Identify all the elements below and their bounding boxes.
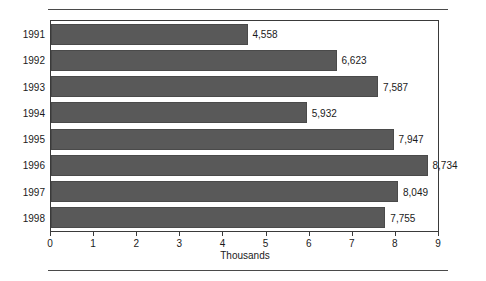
category-label-1997: 1997 bbox=[23, 186, 45, 197]
bar-value-label-1997: 8,049 bbox=[398, 186, 428, 197]
x-tick-0 bbox=[50, 232, 51, 236]
bar-1992[interactable] bbox=[51, 50, 337, 71]
x-tick-label-4: 4 bbox=[220, 238, 226, 249]
x-tick-5 bbox=[266, 232, 267, 236]
category-label-1998: 1998 bbox=[23, 212, 45, 223]
x-tick-label-7: 7 bbox=[349, 238, 355, 249]
x-tick-label-1: 1 bbox=[90, 238, 96, 249]
x-tick-6 bbox=[309, 232, 310, 236]
x-tick-label-6: 6 bbox=[306, 238, 312, 249]
x-tick-2 bbox=[136, 232, 137, 236]
x-tick-7 bbox=[352, 232, 353, 236]
bar-1997[interactable] bbox=[51, 181, 398, 202]
bar-value-label-1996: 8,734 bbox=[428, 160, 458, 171]
bar-value-label-1994: 5,932 bbox=[307, 107, 337, 118]
category-label-1994: 1994 bbox=[23, 107, 45, 118]
x-tick-9 bbox=[438, 232, 439, 236]
bar-row: 4,558 bbox=[51, 24, 439, 45]
bar-row: 8,734 bbox=[51, 155, 439, 176]
bar-1994[interactable] bbox=[51, 102, 307, 123]
bar-row: 7,755 bbox=[51, 207, 439, 228]
x-tick-label-0: 0 bbox=[47, 238, 53, 249]
bar-row: 5,932 bbox=[51, 102, 439, 123]
x-tick-label-5: 5 bbox=[263, 238, 269, 249]
bars-container: 4,5586,6237,5875,9327,9478,7348,0497,755 bbox=[51, 21, 439, 231]
value-axis-title: Thousands bbox=[0, 250, 486, 261]
category-label-1991: 1991 bbox=[23, 29, 45, 40]
bar-row: 7,947 bbox=[51, 129, 439, 150]
x-tick-3 bbox=[179, 232, 180, 236]
category-label-1995: 1995 bbox=[23, 134, 45, 145]
bar-1993[interactable] bbox=[51, 76, 378, 97]
bar-value-label-1992: 6,623 bbox=[337, 55, 367, 66]
bottom-divider-rule bbox=[48, 270, 448, 271]
category-label-1992: 1992 bbox=[23, 55, 45, 66]
bar-value-label-1993: 7,587 bbox=[378, 81, 408, 92]
bar-1995[interactable] bbox=[51, 129, 394, 150]
x-tick-1 bbox=[93, 232, 94, 236]
bar-1998[interactable] bbox=[51, 207, 385, 228]
bar-row: 7,587 bbox=[51, 76, 439, 97]
x-tick-label-3: 3 bbox=[177, 238, 183, 249]
top-divider-rule bbox=[48, 9, 448, 10]
bar-1996[interactable] bbox=[51, 155, 428, 176]
bar-row: 8,049 bbox=[51, 181, 439, 202]
category-label-1996: 1996 bbox=[23, 160, 45, 171]
bar-value-label-1991: 4,558 bbox=[248, 29, 278, 40]
bar-value-label-1998: 7,755 bbox=[385, 212, 415, 223]
bar-value-label-1995: 7,947 bbox=[394, 134, 424, 145]
category-label-1993: 1993 bbox=[23, 81, 45, 92]
x-tick-8 bbox=[395, 232, 396, 236]
x-tick-4 bbox=[222, 232, 223, 236]
bar-chart-figure: 19911992199319941995199619971998 4,5586,… bbox=[0, 0, 486, 281]
category-axis-labels: 19911992199319941995199619971998 bbox=[0, 21, 45, 231]
x-tick-label-8: 8 bbox=[392, 238, 398, 249]
x-tick-label-2: 2 bbox=[133, 238, 139, 249]
bar-1991[interactable] bbox=[51, 24, 248, 45]
value-axis-title-text: Thousands bbox=[220, 250, 269, 261]
bar-row: 6,623 bbox=[51, 50, 439, 71]
x-tick-label-9: 9 bbox=[435, 238, 441, 249]
